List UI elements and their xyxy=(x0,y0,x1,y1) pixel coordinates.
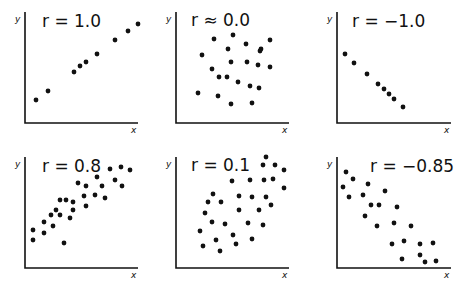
data-point xyxy=(236,80,241,85)
data-point xyxy=(71,200,76,205)
data-point xyxy=(113,38,118,43)
x-axis-label: x xyxy=(443,125,450,135)
data-point xyxy=(248,178,253,183)
data-point xyxy=(269,203,274,208)
data-point xyxy=(268,65,273,70)
data-point xyxy=(51,224,56,229)
data-point xyxy=(271,177,276,182)
data-point xyxy=(229,60,234,65)
data-point xyxy=(248,84,253,89)
data-point xyxy=(72,70,77,75)
data-point xyxy=(95,52,100,57)
scatter-panel: yxr = 0.1 xyxy=(165,155,289,280)
data-point xyxy=(211,192,216,197)
data-point xyxy=(198,229,203,234)
data-point xyxy=(76,181,81,186)
data-point xyxy=(231,233,236,238)
data-point xyxy=(434,259,439,264)
data-point xyxy=(344,170,349,175)
data-point xyxy=(237,194,242,199)
correlation-label: r = 0.1 xyxy=(191,155,250,175)
data-point xyxy=(84,60,89,65)
correlation-scatter-grid: yxr = 1.0yxr ≈ 0.0yxr = −1.0yxr = 0.8yxr… xyxy=(0,0,462,289)
data-point xyxy=(237,208,242,213)
data-point xyxy=(210,67,215,72)
data-point xyxy=(108,167,113,172)
data-point xyxy=(217,75,222,80)
y-axis-label: y xyxy=(326,14,333,24)
data-point xyxy=(376,82,381,87)
y-axis-label: y xyxy=(165,159,172,169)
data-point xyxy=(282,186,287,191)
data-point xyxy=(365,72,370,77)
data-point xyxy=(377,203,382,208)
data-point xyxy=(231,33,236,38)
data-point xyxy=(119,165,124,170)
data-point xyxy=(347,195,352,200)
data-point xyxy=(103,196,108,201)
data-point xyxy=(126,29,131,34)
data-point xyxy=(71,208,76,213)
data-point xyxy=(31,228,36,233)
data-point xyxy=(261,223,266,228)
data-point xyxy=(95,175,100,180)
data-point xyxy=(257,86,262,91)
data-point xyxy=(264,195,269,200)
data-point xyxy=(390,242,395,247)
data-point xyxy=(245,60,250,65)
data-point xyxy=(401,105,406,110)
data-point xyxy=(58,213,63,218)
data-point xyxy=(383,189,388,194)
data-point xyxy=(341,185,346,190)
data-point xyxy=(200,53,205,58)
data-point xyxy=(58,198,63,203)
data-point xyxy=(42,220,47,225)
data-point xyxy=(136,22,141,27)
scatter-panel: yxr = 0.8 xyxy=(14,156,138,280)
scatter-panel: yxr = −0.85 xyxy=(326,156,454,280)
data-point xyxy=(201,244,206,249)
data-point xyxy=(409,224,414,229)
x-axis-label: x xyxy=(281,270,288,280)
data-point xyxy=(100,184,105,189)
data-point xyxy=(418,253,423,258)
data-point xyxy=(216,94,221,99)
data-point xyxy=(31,238,36,243)
data-point xyxy=(256,63,261,68)
data-point xyxy=(225,75,230,80)
data-point xyxy=(210,220,215,225)
correlation-label: r = 1.0 xyxy=(42,11,101,31)
data-point xyxy=(264,155,269,160)
correlation-label: r ≈ 0.0 xyxy=(191,10,250,30)
data-point xyxy=(212,37,217,42)
data-point xyxy=(203,211,208,216)
data-point xyxy=(257,208,262,213)
scatter-panel: yxr = −1.0 xyxy=(326,11,451,135)
y-axis-label: y xyxy=(14,159,21,169)
data-point xyxy=(223,222,228,227)
x-axis-label: x xyxy=(443,270,450,280)
data-point xyxy=(400,257,405,262)
x-axis-label: x xyxy=(130,270,137,280)
x-axis-label: x xyxy=(130,125,137,135)
data-point xyxy=(258,49,263,54)
data-point xyxy=(418,242,423,247)
data-point xyxy=(82,194,87,199)
data-point xyxy=(128,168,133,173)
data-point xyxy=(387,92,392,97)
data-point xyxy=(363,214,368,219)
data-point xyxy=(218,249,223,254)
data-point xyxy=(93,193,98,198)
data-point xyxy=(54,208,59,213)
data-point xyxy=(219,200,224,205)
data-point xyxy=(78,64,83,69)
data-point xyxy=(68,216,73,221)
data-point xyxy=(431,241,436,246)
data-point xyxy=(343,52,348,57)
data-point xyxy=(366,182,371,187)
data-point xyxy=(34,98,39,103)
data-point xyxy=(206,200,211,205)
data-point xyxy=(46,89,51,94)
data-point xyxy=(369,203,374,208)
data-point xyxy=(273,163,278,168)
